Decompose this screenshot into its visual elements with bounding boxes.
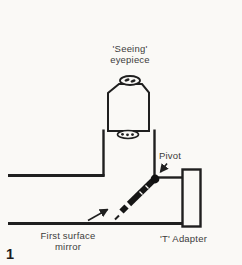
first-surface-mirror-arrow [88, 210, 108, 221]
field-lens-glint [121, 133, 124, 136]
eyepiece-body [108, 84, 149, 131]
field-lens-glint [126, 133, 129, 136]
label-seeing-eyepiece: 'Seeing' eyepiece [99, 44, 161, 65]
eyepiece-eye-lens [120, 76, 140, 85]
label-seeing-eyepiece-line1: 'Seeing' [99, 44, 161, 55]
figure-diagram: 'Seeing' eyepiece Pivot First surface mi… [0, 0, 242, 265]
field-lens-glint [131, 133, 134, 136]
t-adapter-body [183, 170, 201, 227]
mirror-edge-dash [115, 216, 119, 220]
label-pivot: Pivot [159, 151, 181, 162]
figure-number: 1 [6, 246, 14, 262]
label-t-adapter: 'T' Adapter [160, 234, 207, 245]
label-first-surface-mirror: First surface mirror [28, 231, 108, 252]
flip-mirror-diagram-canvas [0, 0, 242, 265]
pivot-arrow [161, 164, 168, 173]
label-first-surface-mirror-line1: First surface [28, 231, 108, 242]
first-surface-mirror-tip [122, 207, 127, 212]
label-first-surface-mirror-line2: mirror [28, 242, 108, 253]
pivot-point [151, 175, 160, 184]
label-seeing-eyepiece-line2: eyepiece [99, 55, 161, 66]
